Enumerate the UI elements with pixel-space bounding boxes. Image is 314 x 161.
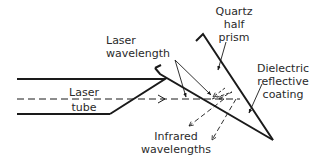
label-line: Quartz [212, 5, 256, 18]
label-line: half [212, 18, 256, 31]
label-line: prism [212, 31, 256, 44]
label-dielectric-reflective-coating: Dielectric reflective coating [252, 62, 314, 101]
label-line: wavelength [106, 47, 170, 60]
label-line: Dielectric [252, 62, 314, 75]
internal-rays [212, 88, 232, 99]
label-line: wavelengths [140, 143, 212, 156]
label-quartz-half-prism: Quartz half prism [212, 5, 256, 44]
label-line: tube [60, 100, 108, 115]
label-line: Infrared [140, 130, 212, 143]
label-line: reflective [252, 75, 314, 88]
label-line: Laser [60, 85, 108, 100]
label-infrared-wavelengths: Infrared wavelengths [140, 130, 212, 156]
label-line: coating [252, 88, 314, 101]
prism-front-cap [155, 65, 161, 68]
label-laser-wavelength: Laser wavelength [106, 34, 170, 60]
laser-wavelength-rays [175, 60, 211, 97]
label-laser-tube: Laser tube [60, 85, 108, 115]
label-line: Laser [106, 34, 170, 47]
